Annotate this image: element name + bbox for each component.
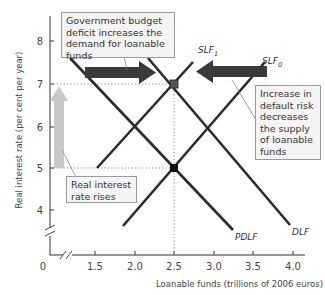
x-tick-label-3-5: 3.5 [245,261,261,272]
slf0-label-sub: 0 [278,61,282,69]
x-axis-title: Loanable funds (trillions of 2006 euros) [156,279,323,289]
y-tick-label-6: 6 [37,122,43,133]
reference-lines [50,84,174,255]
x-tick-label-3-0: 3.0 [206,261,222,272]
demand-shift-arrow-icon [85,61,156,84]
slf0-curve [123,62,265,226]
supply-shift-arrow-icon [196,60,267,83]
y-axis-title: Real interest rate (per cent per year) [14,52,24,209]
pdlf-curve [70,58,233,230]
slf1-label-main: SLF [198,45,215,55]
x-tick-label-1-5: 1.5 [87,261,103,272]
x-tick-label-2-5: 2.5 [166,261,182,272]
slf1-label: SLF1 [198,45,218,58]
origin-label: 0 [40,261,46,272]
y-ticks [50,41,54,210]
supply-decrease-callout: Increase in default risk decreases the s… [255,85,321,160]
dlf-label: DLF [292,227,310,237]
y-tick-label-5: 5 [37,163,43,174]
y-tick-label-4: 4 [37,205,43,216]
pdlf-label: PDLF [235,232,258,242]
y-tick-label-8: 8 [37,36,43,47]
x-tick-label-2-0: 2.0 [127,261,143,272]
equilibrium-point-new [170,80,178,88]
y-tick-label-7: 7 [37,79,43,90]
slf0-label-main: SLF [262,56,279,66]
x-tick-label-4-0: 4.0 [285,261,301,272]
demand-increase-callout: Government budget deficit increases the … [61,12,175,58]
rate-rise-callout: Real interest rate rises [66,176,137,203]
x-ticks [95,251,293,255]
slf1-label-sub: 1 [214,50,218,58]
equilibrium-point-initial [170,164,178,172]
